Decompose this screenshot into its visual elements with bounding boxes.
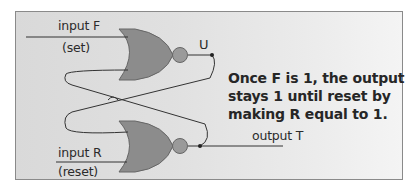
junction-dot-t <box>198 144 202 148</box>
note-line: making R equal to 1. <box>228 105 404 123</box>
reset-label: (reset) <box>58 164 98 179</box>
nor-gate-top <box>119 29 188 80</box>
inverter-bubble-bottom <box>173 139 188 154</box>
inverter-bubble-top <box>173 48 188 63</box>
junction-dot-u <box>210 53 214 57</box>
note-line: Once F is 1, the output <box>228 69 404 87</box>
input-r-label: input R <box>58 145 101 160</box>
input-f-label: input F <box>58 18 100 33</box>
output-t-label: output T <box>252 128 303 143</box>
wire-crossover <box>108 97 118 100</box>
output-u-label: U <box>199 37 208 52</box>
explanation-note: Once F is 1, the output stays 1 until re… <box>228 69 404 123</box>
nor-gate-bottom <box>119 121 188 172</box>
note-line: stays 1 until reset by <box>228 87 404 105</box>
set-label: (set) <box>62 40 90 55</box>
